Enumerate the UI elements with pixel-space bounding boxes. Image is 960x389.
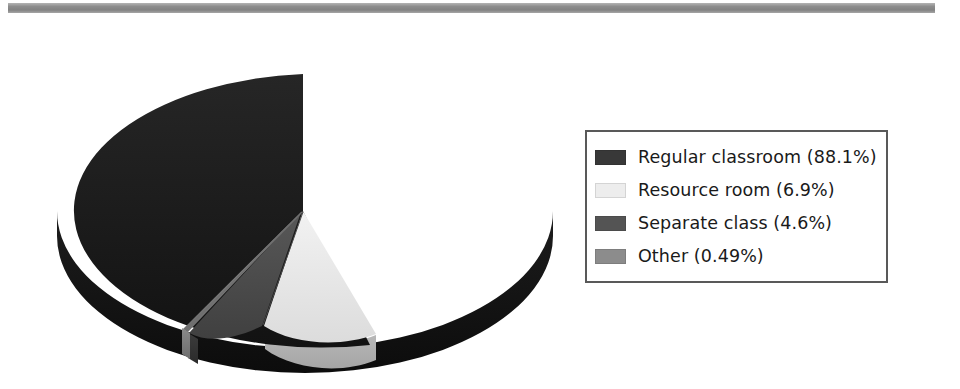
legend-label-regular-classroom: Regular classroom (88.1%) — [638, 149, 877, 167]
chart-legend: Regular classroom (88.1%) Resource room … — [585, 130, 888, 283]
pie-slice-side-other — [182, 328, 190, 359]
top-horizontal-rule — [8, 3, 935, 13]
legend-item-regular-classroom[interactable]: Regular classroom (88.1%) — [587, 141, 886, 174]
legend-label-resource-room: Resource room (6.9%) — [638, 182, 835, 200]
legend-swatch-resource-room — [595, 183, 626, 198]
legend-swatch-other — [595, 249, 626, 264]
pie-chart-graphic — [40, 36, 570, 376]
legend-item-separate-class[interactable]: Separate class (4.6%) — [587, 207, 886, 240]
legend-label-separate-class: Separate class (4.6%) — [638, 215, 832, 233]
legend-label-other: Other (0.49%) — [638, 248, 764, 266]
legend-item-other[interactable]: Other (0.49%) — [587, 240, 886, 273]
legend-item-resource-room[interactable]: Resource room (6.9%) — [587, 174, 886, 207]
legend-swatch-regular-classroom — [595, 150, 626, 165]
pie-chart-svg — [40, 36, 570, 376]
legend-swatch-separate-class — [595, 216, 626, 231]
pie-chart-figure: Regular classroom (88.1%) Resource room … — [0, 18, 960, 389]
